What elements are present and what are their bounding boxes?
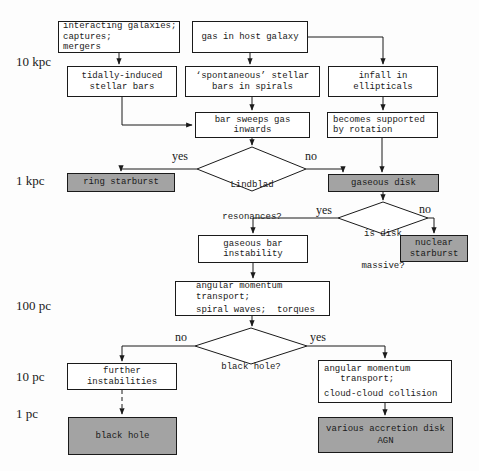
text-line: by rotation [333, 125, 392, 136]
node-gas-in-host-galaxy: gas in host galaxy [192, 21, 308, 53]
decision-black-hole: black hole? [195, 341, 307, 394]
edge-lindblad-yes-to-ring [121, 169, 197, 171]
text-line: spiral waves; torques [196, 305, 315, 316]
text-line: angular momentum [324, 364, 410, 375]
text-line: inwards [234, 125, 272, 136]
text-line: instability [223, 249, 282, 260]
node-angular-momentum-cloud: angular momentum transport; cloud-cloud … [318, 360, 452, 403]
edge-gashost-to-infall [308, 37, 383, 64]
edge-massive-no-to-nuclear [428, 218, 434, 233]
scale-label-10kpc: 10 kpc [16, 55, 51, 68]
edge-lindblad-no-to-disk [306, 169, 343, 172]
branch-label-yes-lindblad: yes [172, 150, 188, 162]
scale-label-10pc: 10 pc [16, 370, 45, 383]
text-line: ‘spontaneous’ stellar [196, 71, 309, 82]
branch-label-no-black-hole: no [175, 331, 187, 343]
text-line: stellar bars [90, 82, 155, 93]
text-line: cloud-cloud collision [324, 389, 437, 400]
text-line: further [103, 366, 141, 377]
text-line: Lindblad [200, 180, 304, 191]
text-line: various accretion disk [326, 424, 445, 435]
scale-label-1pc: 1 pc [16, 407, 38, 420]
text-line: bar sweeps gas [215, 115, 291, 126]
text-line: mergers [63, 42, 101, 53]
node-bar-sweeps-gas: bar sweeps gas inwards [195, 112, 310, 138]
node-becomes-supported: becomes supported by rotation [327, 112, 438, 138]
text-line: ellipticals [353, 82, 412, 93]
node-black-hole: black hole [68, 417, 177, 455]
text-line: transport; [196, 292, 250, 303]
node-spontaneous-bars: ‘spontaneous’ stellar bars in spirals [185, 66, 320, 97]
branch-label-yes-black-hole: yes [310, 331, 326, 343]
text-line: interacting galaxies; [63, 21, 176, 32]
scale-label-1kpc: 1 kpc [16, 174, 45, 187]
edge-blackholeq-no-to-further [122, 346, 195, 361]
decision-lindblad-resonances: Lindblad resonances? [200, 159, 304, 243]
text-line: black hole [95, 431, 149, 442]
text-line: angular momentum [196, 281, 282, 292]
node-interacting-galaxies: interacting galaxies; captures; mergers [58, 21, 180, 53]
text-line: ring starburst [83, 177, 159, 188]
decision-is-disk-massive: is disk massive? [338, 208, 428, 292]
branch-label-yes-disk-massive: yes [316, 204, 332, 216]
text-line: gas in host galaxy [201, 32, 298, 43]
branch-label-no-disk-massive: no [419, 203, 431, 215]
text-line: tidally-induced [81, 71, 162, 82]
node-angular-momentum-spiral: angular momentum transport; spiral waves… [175, 281, 330, 316]
node-ring-starburst: ring starburst [67, 173, 175, 192]
scale-label-100pc: 100 pc [16, 299, 51, 312]
text-line: gaseous disk [351, 178, 416, 189]
text-line: instabilities [87, 377, 157, 388]
text-line: infall in [359, 71, 408, 82]
text-line: captures; [63, 32, 112, 43]
text-line: massive? [338, 261, 428, 272]
text-line: bars in spirals [212, 82, 293, 93]
node-infall-ellipticals: infall in ellipticals [328, 66, 438, 97]
node-gaseous-disk: gaseous disk [328, 174, 439, 192]
text-line: becomes supported [333, 115, 425, 126]
edge-blackholeq-yes-to-amtcloud [307, 346, 385, 358]
node-further-instabilities: further instabilities [67, 363, 177, 390]
text-line: black hole? [195, 362, 307, 373]
text-line: transport; [324, 374, 394, 385]
branch-label-no-lindblad: no [305, 150, 317, 162]
galaxy-gas-inflow-flowchart: interacting galaxies; captures; mergers … [0, 0, 479, 471]
text-line: is disk [338, 229, 428, 240]
text-line: AGN [377, 436, 393, 447]
node-various-accretion-agn: various accretion disk AGN [318, 417, 453, 453]
edge-tidally-to-barsweeps [122, 97, 192, 125]
node-tidally-induced-bars: tidally-induced stellar bars [67, 66, 177, 97]
text-line: resonances? [200, 212, 304, 223]
